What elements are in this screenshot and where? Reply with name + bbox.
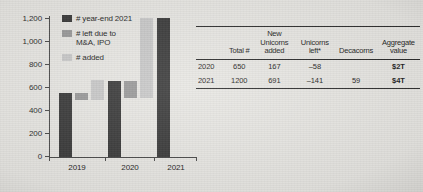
x-tick-mark	[196, 158, 197, 161]
cell-new-unicorns-added: 167	[254, 59, 294, 74]
legend-item-year-end: # year-end 2021	[62, 14, 132, 24]
table-header-unicorns-left: Unicorns left*	[294, 27, 335, 60]
table-header-aggregate-value: Aggregate value	[377, 27, 420, 60]
table-header-year	[196, 27, 224, 60]
y-tick-label-0: 0	[8, 152, 42, 161]
x-axis-label-2020: 2020	[121, 163, 138, 172]
cell-new-unicorns-added: 691	[254, 74, 294, 89]
cell-aggregate-value: $2T	[377, 59, 420, 74]
cell-year: 2021	[196, 74, 224, 89]
bar-2020-left-due-to-ma-ipo	[124, 81, 137, 98]
y-tick-label-600: 600	[8, 83, 42, 92]
cell-decacorns: 59	[335, 74, 376, 89]
scanned-chart-page: 1,200 1,000 800 600 400 200 0	[0, 0, 423, 192]
x-axis-line	[49, 157, 197, 158]
table-header-total: Total #	[224, 27, 254, 60]
y-tick-label-400: 400	[8, 106, 42, 115]
summary-table: Total # New Unicorns added Unicorns left…	[196, 26, 420, 89]
cell-unicorns-left: –141	[294, 74, 335, 89]
x-tick-mark	[105, 158, 106, 161]
legend-item-added: # added	[62, 53, 132, 63]
cell-aggregate-value: $4T	[377, 74, 420, 89]
waterfall-chart: 1,200 1,000 800 600 400 200 0	[0, 0, 205, 192]
table-row: 2020 650 167 –58 $2T	[196, 59, 420, 74]
table-header-decacorns: Decacorns	[335, 27, 376, 60]
cell-decacorns	[335, 59, 376, 74]
y-tick-label-800: 800	[8, 60, 42, 69]
table-row: 2021 1200 691 –141 59 $4T	[196, 74, 420, 89]
unicorn-stats-table: Total # New Unicorns added Unicorns left…	[196, 26, 420, 89]
legend-swatch-light-icon	[62, 54, 72, 61]
y-tick-label-1000: 1,000	[8, 37, 42, 46]
chart-legend: # year-end 2021 # left due to M&A, IPO #…	[62, 14, 132, 67]
cell-total: 650	[224, 59, 254, 74]
legend-swatch-mid-icon	[62, 30, 72, 37]
x-tick-mark	[154, 158, 155, 161]
cell-unicorns-left: –58	[294, 59, 335, 74]
legend-item-left-due-to-ma-ipo: # left due to M&A, IPO	[62, 29, 132, 48]
x-axis-label-2019: 2019	[68, 163, 85, 172]
y-axis-line	[49, 16, 50, 158]
bar-2019-added	[91, 80, 104, 100]
bar-2019-total	[59, 93, 72, 157]
cell-total: 1200	[224, 74, 254, 89]
legend-swatch-dark-icon	[62, 15, 72, 22]
bar-2020-total	[108, 81, 121, 157]
x-axis-label-2021: 2021	[167, 163, 184, 172]
legend-label-added: # added	[76, 53, 104, 63]
legend-label-left-due-to-ma-ipo: # left due to M&A, IPO	[76, 29, 116, 48]
bar-2019-left-due-to-ma-ipo	[75, 93, 88, 100]
y-tick-label-200: 200	[8, 129, 42, 138]
x-tick-mark	[49, 158, 50, 161]
y-tick-label-1200: 1,200	[8, 14, 42, 23]
table-header-row: Total # New Unicorns added Unicorns left…	[196, 27, 420, 60]
bar-2020-added	[140, 18, 153, 98]
bar-2021-total	[157, 18, 170, 157]
table-header-new-unicorns-added: New Unicorns added	[254, 27, 294, 60]
cell-year: 2020	[196, 59, 224, 74]
legend-label-year-end: # year-end 2021	[76, 14, 132, 24]
